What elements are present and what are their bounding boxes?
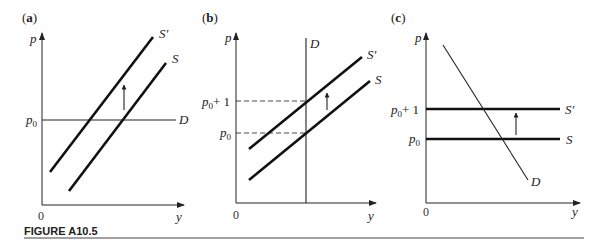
supply-label: S	[566, 132, 573, 147]
origin-label: 0	[38, 209, 44, 223]
panel-c-label: (c)	[391, 10, 405, 25]
panel-a: (a) p 0 y p0 D S′ S	[22, 10, 189, 224]
supply-curve-shifted	[50, 37, 153, 172]
y-axis-label: p	[224, 30, 232, 45]
x-axis-label: y	[366, 208, 374, 223]
figure-caption: FIGURE A10.5	[24, 225, 98, 237]
supply-label: S	[172, 51, 179, 66]
supply-shifted-label: S′	[159, 26, 169, 41]
figure-a10-5: (a) p 0 y p0 D S′ S (b) p 0 y D p0+ 1 p0…	[0, 0, 603, 243]
supply-shifted-label: S′	[565, 102, 575, 117]
y-axis-label: p	[414, 30, 422, 45]
p0-plus-1-label: p0+ 1	[390, 102, 419, 119]
p0-plus-1-label: p0+ 1	[201, 94, 230, 111]
demand-label: D	[309, 36, 320, 51]
demand-curve	[443, 45, 528, 180]
origin-label: 0	[233, 208, 239, 222]
x-axis-label: y	[174, 209, 182, 224]
p0-label: p0	[408, 131, 421, 148]
panel-c: (c) p 0 y S′ S p0+ 1 p0 D	[390, 10, 580, 219]
supply-shifted-label: S′	[367, 47, 377, 62]
origin-label: 0	[423, 205, 429, 219]
x-axis-label: y	[570, 204, 578, 219]
p0-label: p0	[25, 112, 38, 129]
demand-label: D	[178, 112, 189, 127]
p0-label: p0	[219, 125, 232, 142]
y-axis-label: p	[29, 31, 37, 46]
panel-a-label: (a)	[22, 10, 37, 25]
supply-curve	[249, 81, 370, 180]
demand-label: D	[530, 174, 541, 189]
panel-b: (b) p 0 y D p0+ 1 p0 S′ S	[201, 10, 382, 223]
supply-label: S	[375, 72, 382, 87]
panel-b-label: (b)	[202, 10, 218, 25]
